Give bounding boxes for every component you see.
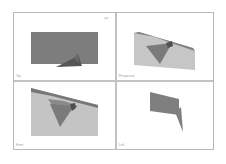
model-left-view (117, 82, 213, 149)
viewport-label-front: Front (16, 143, 23, 147)
viewport-front[interactable]: Front (14, 82, 115, 149)
viewport-top[interactable]: xyz Top (14, 13, 115, 80)
viewport-grid: xyz Top Perspective Front Left (13, 12, 214, 150)
model-front-view (14, 82, 115, 149)
viewport-label-top: Top (16, 74, 21, 78)
viewport-perspective[interactable]: Perspective (117, 13, 213, 80)
model-perspective-view (117, 13, 213, 80)
viewport-label-perspective: Perspective (119, 74, 135, 78)
axis-gizmo-icon: xyz (104, 16, 109, 20)
viewport-left[interactable]: Left (117, 82, 213, 149)
viewport-label-left: Left (119, 143, 124, 147)
model-top-view (14, 13, 115, 80)
